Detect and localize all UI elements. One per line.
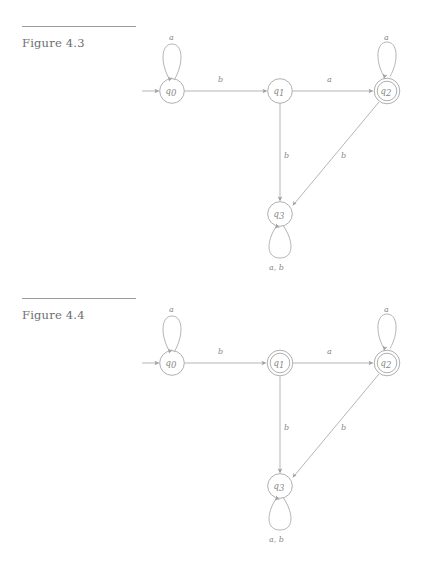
state-node-q3[interactable]: q3 [268,202,293,227]
transition-q2-q3-b: b [293,374,379,478]
edge-label-q3-self: a, b [269,263,284,272]
edge-label-q0-q1: b [218,75,223,84]
edge-label-q3-self: a, b [269,535,284,544]
svg-text:q0: q0 [166,358,177,370]
figure-4-4-block: Figure 4.4 a b a a [0,272,444,572]
transition-q3-q3-ab: a, b [269,496,291,544]
figure-4-4-automaton-diagram: a b a a b b [0,272,444,572]
transition-q1-q3-b: b [278,376,289,474]
transition-q0-q1-b: b [185,347,267,365]
svg-text:q1: q1 [274,86,285,98]
edge-label-q2-self: a [384,33,389,42]
edge-label-q0-self: a [169,305,174,314]
transition-q2-q3-b: b [293,102,379,206]
transition-q1-q3-b: b [278,104,289,202]
edge-label-q0-q1: b [218,347,223,356]
figure-4-3-block: Figure 4.3 a b a a [0,0,444,286]
transition-q0-q0-a: a [163,305,181,354]
start-arrow-q0 [142,361,160,366]
transition-q0-q1-b: b [185,75,268,93]
transition-q2-q2-a: a [378,305,396,351]
transition-q3-q3-ab: a, b [269,224,291,272]
svg-text:q0: q0 [166,86,177,98]
edge-label-q1-q2: a [327,75,332,84]
svg-text:q3: q3 [274,481,285,493]
start-arrow-q0 [142,89,160,94]
state-node-q0[interactable]: q0 [160,79,185,104]
state-node-q2[interactable]: q2 [374,78,400,104]
edge-label-q2-q3: b [341,151,346,160]
edge-label-q1-q3: b [284,151,289,160]
edge-label-q1-q3: b [284,423,289,432]
svg-text:q1: q1 [274,358,285,370]
svg-text:q3: q3 [274,209,285,221]
state-node-q1[interactable]: q1 [268,79,293,104]
transition-q0-q0-a: a [163,33,181,82]
edge-label-q2-self: a [384,305,389,314]
state-node-q2[interactable]: q2 [374,350,400,376]
transition-q1-q2-a: a [293,75,374,93]
state-node-q1[interactable]: q1 [267,350,293,376]
state-node-q0[interactable]: q0 [160,351,185,376]
edge-label-q0-self: a [169,33,174,42]
transition-q1-q2-a: a [293,347,374,365]
state-node-q3[interactable]: q3 [268,474,293,499]
svg-text:q2: q2 [381,86,392,98]
svg-text:q2: q2 [381,358,392,370]
edge-label-q2-q3: b [341,423,346,432]
edge-label-q1-q2: a [327,347,332,356]
figure-4-3-automaton-diagram: a b a a b b [0,0,444,286]
transition-q2-q2-a: a [378,33,396,79]
